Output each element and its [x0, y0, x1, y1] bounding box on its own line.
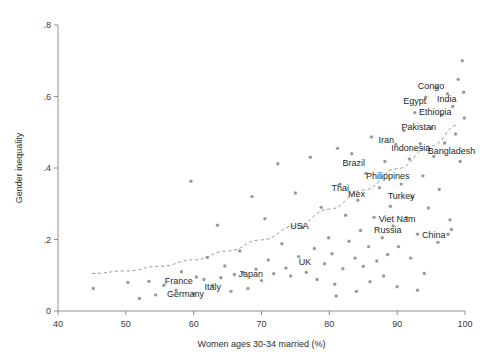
data-point — [368, 280, 371, 283]
x-tick-label: 50 — [121, 319, 131, 329]
data-point — [233, 273, 236, 276]
data-point — [323, 262, 326, 265]
x-tick-label: 60 — [189, 319, 199, 329]
data-point — [356, 198, 359, 201]
country-label-turkey: Turkey — [388, 191, 416, 201]
data-point — [180, 270, 183, 273]
country-label-philippines: Philippines — [366, 171, 410, 181]
data-point — [416, 289, 419, 292]
data-point — [409, 256, 412, 259]
x-axis-title: Women ages 30-34 married (%) — [198, 339, 326, 349]
data-point — [463, 116, 466, 119]
data-point — [238, 249, 241, 252]
data-point — [276, 162, 279, 165]
data-point — [443, 141, 446, 144]
data-point — [216, 224, 219, 227]
data-point — [333, 282, 336, 285]
country-label-france: France — [165, 276, 193, 286]
country-label-china: China — [422, 230, 446, 240]
data-point — [272, 272, 275, 275]
country-label-bangladesh: Bangladesh — [428, 146, 476, 156]
country-label-russia: Russia — [374, 225, 402, 235]
data-point — [246, 287, 249, 290]
data-point — [280, 242, 283, 245]
data-point — [370, 135, 373, 138]
data-point — [154, 293, 157, 296]
data-point — [126, 281, 129, 284]
country-label-india: India — [437, 94, 457, 104]
y-tick-label: .4 — [43, 163, 51, 173]
country-label-brazil: Brazil — [342, 158, 365, 168]
data-point — [294, 191, 297, 194]
data-point — [263, 217, 266, 220]
country-label-italy: Italy — [204, 282, 221, 292]
data-point — [446, 232, 449, 235]
y-tick-label: .2 — [43, 235, 51, 245]
data-point — [462, 91, 465, 94]
data-point — [438, 188, 441, 191]
data-point — [359, 229, 362, 232]
data-point — [367, 245, 370, 248]
data-point — [138, 297, 141, 300]
x-tick-label: 100 — [457, 319, 472, 329]
x-tick-label: 40 — [53, 319, 63, 329]
country-label-germany: Germany — [167, 289, 205, 299]
data-point — [436, 241, 439, 244]
data-point — [413, 111, 416, 114]
data-point — [372, 216, 375, 219]
data-point — [327, 236, 330, 239]
data-point — [250, 195, 253, 198]
data-point — [315, 278, 318, 281]
country-label-thai: Thai — [331, 183, 349, 193]
data-point — [195, 275, 198, 278]
data-point — [448, 218, 451, 221]
plot-canvas: 0.2.4.6.8405060708090100Women ages 30-34… — [0, 0, 495, 357]
data-point — [454, 132, 457, 135]
data-point — [451, 105, 454, 108]
data-point — [355, 290, 358, 293]
y-tick-label: .6 — [43, 92, 51, 102]
data-point — [459, 160, 462, 163]
data-point — [383, 160, 386, 163]
data-point — [450, 228, 453, 231]
scatter-chart-figure: 0.2.4.6.8405060708090100Women ages 30-34… — [0, 0, 495, 357]
x-tick-label: 70 — [256, 319, 266, 329]
data-point — [382, 274, 385, 277]
data-point — [375, 259, 378, 262]
y-tick-label: 0 — [46, 306, 51, 316]
data-point — [309, 156, 312, 159]
data-point — [381, 236, 384, 239]
data-point — [423, 272, 426, 275]
data-point — [206, 256, 209, 259]
data-point — [229, 290, 232, 293]
data-point — [344, 213, 347, 216]
data-point — [189, 180, 192, 183]
country-label-ethiopia: Ethiopia — [419, 107, 452, 117]
data-point — [397, 245, 400, 248]
data-point — [313, 247, 316, 250]
country-label-indonesia: Indonesia — [391, 143, 430, 153]
y-tick-label: .8 — [43, 20, 51, 30]
data-point — [319, 206, 322, 209]
data-point — [336, 147, 339, 150]
country-label-egypt: Egypt — [403, 96, 427, 106]
data-point — [219, 276, 222, 279]
data-point — [305, 271, 308, 274]
data-point — [400, 182, 403, 185]
data-point — [378, 186, 381, 189]
data-point — [92, 287, 95, 290]
country-label-mex: Mex — [348, 189, 366, 199]
data-point — [267, 258, 270, 261]
x-tick-label: 80 — [324, 319, 334, 329]
data-point — [395, 285, 398, 288]
x-tick-label: 90 — [392, 319, 402, 329]
data-point — [362, 265, 365, 268]
data-point — [350, 152, 353, 155]
data-point — [330, 252, 333, 255]
data-point — [341, 267, 344, 270]
data-point — [289, 274, 292, 277]
data-point — [389, 205, 392, 208]
country-label-uk: UK — [299, 257, 312, 267]
data-point — [260, 279, 263, 282]
data-point — [223, 264, 226, 267]
